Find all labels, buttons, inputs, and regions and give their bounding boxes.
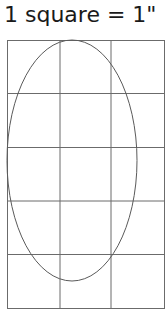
ellipse-shape (7, 40, 137, 281)
grid-border (8, 41, 165, 309)
grid (7, 40, 165, 309)
grid-diagram (0, 0, 167, 318)
